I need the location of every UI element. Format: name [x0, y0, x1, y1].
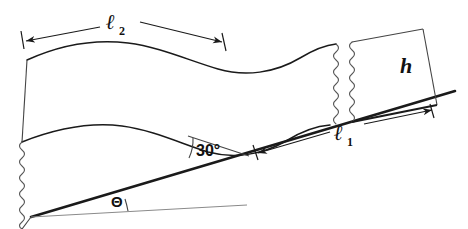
band-bottom-edge-left — [22, 217, 31, 229]
wavy-break-left — [20, 142, 25, 229]
theta-symbol: Θ — [111, 193, 123, 210]
l1-subscript: 1 — [347, 135, 353, 149]
angle-arc-theta — [125, 199, 128, 211]
curved-band-shape — [22, 42, 336, 156]
l2-symbol: ℓ — [106, 10, 115, 34]
height-h-label: h — [400, 53, 412, 78]
inclined-plane-diagram: ℓ 2 ℓ 1 h 30° — [0, 0, 468, 229]
theta-label: Θ — [111, 193, 123, 210]
wavy-break-middle-b — [350, 42, 355, 122]
dimension-line-l1 — [253, 104, 434, 160]
l1-symbol: ℓ — [334, 121, 343, 145]
diagram-canvas: ℓ 2 ℓ 1 h 30° — [0, 0, 468, 229]
h-symbol: h — [400, 53, 412, 78]
l2-subscript: 2 — [119, 24, 125, 38]
length-l2-label: ℓ 2 — [106, 10, 125, 38]
wavy-break-middle-a — [334, 44, 339, 124]
angle-30-text: 30° — [196, 142, 220, 159]
